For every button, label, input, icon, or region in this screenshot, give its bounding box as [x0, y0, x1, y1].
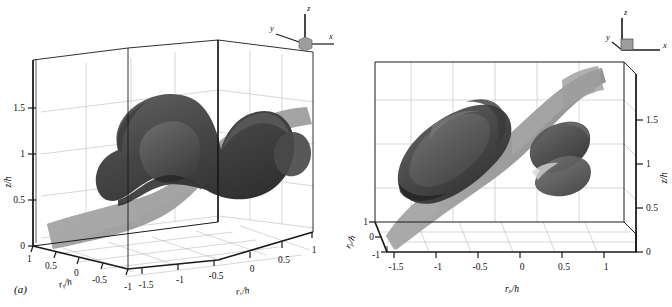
ry-tick--0.5: -0.5: [92, 275, 107, 285]
figure-root: 0 0.5 1 1.5 z/h 1 0.5: [0, 0, 672, 307]
panel-a: 0 0.5 1 1.5 z/h 1 0.5: [0, 0, 336, 307]
rx-tick-1: 1: [312, 245, 317, 255]
triad-x-label: x: [328, 31, 333, 41]
rx-tick--0.5: -0.5: [472, 262, 487, 272]
triad-y-label: y: [605, 32, 610, 42]
panel-b-rx-axis-label: rₓ/h: [505, 284, 519, 294]
rx-axis-label: rₓ/h: [505, 284, 519, 294]
rx-tick-0: 0: [250, 264, 255, 274]
triad-z-label: z: [306, 3, 311, 13]
ry-tick--1: -1: [124, 282, 132, 292]
panel-a-z-ticks: [28, 108, 36, 246]
panel-b: 0 0.5 1 1.5 z/h 1 0 -1: [336, 0, 672, 307]
z-tick-0.5: 0.5: [646, 203, 658, 213]
ry-tick-0: 0: [74, 268, 79, 278]
panel-a-svg: 0 0.5 1 1.5 z/h 1 0.5: [0, 0, 336, 307]
rx-tick--0.5: -0.5: [208, 271, 223, 281]
ry-axis-label: rᵧ/h: [57, 276, 73, 289]
rx-tick--1.5: -1.5: [138, 280, 153, 290]
panel-a-canvas: 0 0.5 1 1.5 z/h 1 0.5: [0, 0, 336, 307]
z-tick-0.5: 0.5: [13, 195, 25, 205]
ry-tick-1: 1: [363, 217, 368, 227]
rx-tick-0: 0: [520, 262, 525, 272]
triad-z-label: z: [623, 7, 628, 17]
z-tick-0: 0: [20, 241, 25, 251]
panel-a-z-ticklabels: 0 0.5 1 1.5: [13, 103, 25, 251]
panel-a-rx-axis-label: rₓ/h: [235, 285, 250, 297]
panel-a-ry-axis-label: rᵧ/h: [57, 276, 73, 289]
triad-x-label: x: [662, 40, 667, 50]
panel-b-z-axis-label: z/h: [659, 172, 669, 184]
z-tick-1.5: 1.5: [646, 115, 658, 125]
panel-b-canvas: 0 0.5 1 1.5 z/h 1 0 -1: [336, 0, 672, 307]
z-tick-0: 0: [646, 247, 651, 257]
panel-a-rx-ticklabels: -1.5 -1 -0.5 0 0.5 1: [138, 245, 316, 290]
panel-b-z-ticks: [636, 120, 643, 252]
panel-b-ry-ticklabels: 1 0 -1: [363, 217, 380, 260]
panel-b-rx-ticks: [394, 252, 604, 258]
rx-tick-1: 1: [604, 262, 609, 272]
z-axis-label: z/h: [659, 172, 669, 184]
panel-b-grid-right-wall: [624, 62, 636, 200]
rx-tick-0.5: 0.5: [278, 255, 290, 265]
panel-a-orientation-triad: z y x: [269, 3, 334, 51]
rx-axis-label: rₓ/h: [235, 285, 250, 297]
triad-y-label: y: [269, 23, 274, 33]
panel-b-svg: 0 0.5 1 1.5 z/h 1 0 -1: [336, 0, 672, 307]
panel-b-ry-axis-label: rᵧ/h: [343, 233, 358, 250]
z-tick-1.5: 1.5: [13, 103, 25, 113]
ry-tick-0.5: 0.5: [45, 261, 57, 271]
rx-tick-0.5: 0.5: [558, 262, 570, 272]
panel-b-z-ticklabels: 0 0.5 1 1.5: [646, 115, 658, 257]
panel-b-rx-ticklabels: -1.5 -1 -0.5 0 0.5 1: [388, 262, 608, 272]
z-tick-1: 1: [646, 159, 651, 169]
ry-tick-0: 0: [369, 232, 374, 242]
ry-tick-1: 1: [27, 254, 32, 264]
panel-a-ry-ticklabels: 1 0.5 0 -0.5 -1: [27, 254, 132, 292]
ry-tick--1: -1: [372, 250, 380, 260]
panel-b-orientation-triad: z y x: [605, 7, 667, 50]
panel-a-rx-ticks: [142, 232, 312, 274]
rx-tick--1: -1: [176, 275, 184, 285]
rx-tick--1: -1: [434, 262, 442, 272]
ry-axis-label: rᵧ/h: [343, 233, 358, 250]
z-tick-1: 1: [20, 149, 25, 159]
z-axis-label: z/h: [3, 176, 13, 188]
panel-a-z-axis-label: z/h: [3, 176, 13, 188]
panel-a-label: (a): [14, 283, 27, 295]
rx-tick--1.5: -1.5: [388, 262, 403, 272]
